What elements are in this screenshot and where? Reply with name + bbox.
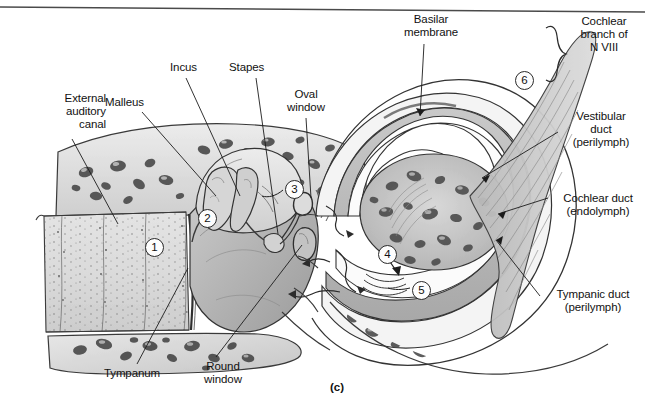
step-marker-2: 2: [198, 209, 217, 228]
round-window-structure: [293, 228, 316, 261]
label-incus: Incus: [170, 61, 220, 74]
step-marker-4: 4: [378, 245, 397, 264]
figure-caption: (c): [330, 381, 344, 393]
label-malleus: Malleus: [105, 96, 175, 109]
label-vestibular-duct: Vestibular duct (perilymph): [560, 110, 642, 150]
step-marker-1: 1: [145, 238, 164, 257]
label-round-window: Round window: [192, 360, 254, 386]
external-auditory-canal-structure: [36, 210, 192, 334]
temporal-bone-lower: [48, 333, 301, 374]
label-tympanic-duct: Tympanic duct (perilymph): [543, 288, 643, 314]
step-marker-5: 5: [412, 281, 431, 300]
ear-anatomy-illustration: [0, 0, 645, 411]
label-oval-window: Oval window: [275, 88, 337, 114]
figure-panel: External auditory canal Malleus Incus St…: [0, 0, 645, 411]
label-basilar-membrane: Basilar membrane: [389, 13, 473, 39]
step-marker-6: 6: [515, 71, 534, 90]
canal-epithelium-texture: [40, 210, 192, 334]
step-marker-3: 3: [285, 180, 304, 199]
label-stapes: Stapes: [229, 61, 284, 74]
top-divider-rule: [0, 7, 645, 12]
label-cochlear-duct: Cochlear duct (endolymph): [552, 192, 644, 218]
label-cochlear-branch-n-viii: Cochlear branch of N VIII: [566, 15, 642, 55]
label-external-auditory-canal: External auditory canal: [12, 92, 106, 132]
label-tympanum: Tympanum: [92, 367, 172, 380]
